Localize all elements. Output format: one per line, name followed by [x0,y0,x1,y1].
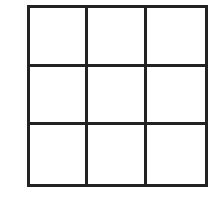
grid-cell-r1-c3 [147,8,205,67]
grid-cell-r2-c1 [30,67,88,126]
grid-cell-r3-c1 [30,125,88,184]
grid-cell-r1-c2 [88,8,146,67]
diagram-canvas [0,0,216,199]
grid-cell-r3-c2 [88,125,146,184]
grid-cell-r2-c3 [147,67,205,126]
three-by-three-grid [27,5,208,187]
grid-cell-r1-c1 [30,8,88,67]
grid-cell-r2-c2 [88,67,146,126]
grid-cell-r3-c3 [147,125,205,184]
